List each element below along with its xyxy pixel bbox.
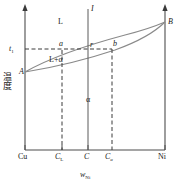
x-tick-label-ni: Ni [158, 153, 166, 161]
alloy-line-text: I [91, 4, 94, 13]
point-r-text: r [90, 40, 93, 49]
y-axis-title: 温度 [1, 72, 14, 90]
region-liquid-alpha-text: L+α [49, 55, 63, 64]
x-tick-label-calpha: Cα [105, 153, 113, 161]
liquidus-curve [25, 22, 165, 72]
x-tick-cl-sub: L [60, 157, 63, 162]
x-tick-label-cu: Cu [18, 153, 27, 161]
x-axis-title: wNi [80, 170, 90, 179]
y-tick-subscript: 1 [11, 49, 14, 54]
y-axis-arrowhead [22, 4, 27, 11]
region-label-liquid: L [58, 18, 63, 26]
x-tick-cu-text: Cu [18, 152, 27, 161]
alloy-line-label: I [91, 5, 94, 13]
point-label-a: a [59, 40, 63, 48]
region-liquid-text: L [58, 17, 63, 26]
region-label-alpha: α [86, 96, 90, 104]
region-label-liquid-alpha: L+α [49, 56, 63, 64]
point-a-endpoint-text: A [19, 67, 24, 76]
point-label-r: r [90, 41, 93, 49]
point-label-a-endpoint: A [19, 68, 24, 76]
x-tick-ni-text: Ni [158, 152, 166, 161]
y-tick-label-t1: t1 [9, 45, 14, 53]
point-label-b: b [113, 40, 117, 48]
x-tick-calpha-sub: α [110, 157, 113, 162]
right-axis-arrowhead [162, 4, 167, 11]
point-label-b-endpoint: B [168, 18, 173, 26]
point-b-text: b [113, 39, 117, 48]
x-tick-label-c: C [84, 153, 89, 161]
region-alpha-text: α [86, 95, 90, 104]
phase-diagram-figure: 温度 wNi t1 Cu CL C Cα Ni A B a r b L [0, 0, 182, 187]
x-tick-label-cl: CL [55, 153, 63, 161]
point-b-endpoint-text: B [168, 17, 173, 26]
x-tick-c-text: C [84, 152, 89, 161]
x-axis-title-sub: Ni [85, 175, 90, 180]
point-a-text: a [59, 39, 63, 48]
